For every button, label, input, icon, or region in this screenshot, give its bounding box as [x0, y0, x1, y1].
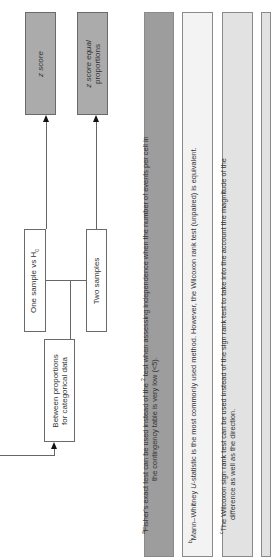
footnote-mann-whitney-text: bMann–Whitney U-statistic is the most co… — [190, 148, 199, 544]
connector-to-z-score-equal — [96, 121, 97, 229]
node-z-score: z score — [25, 12, 56, 115]
connector-from-parent-vertical — [54, 448, 55, 456]
footnote-fisher-text: aFisher's exact test can be used instead… — [142, 137, 160, 535]
connector-branch-horizontal — [46, 280, 86, 281]
node-z-score-equal-proportions-label: z score equal proportions — [83, 40, 101, 88]
connector-to-z-score — [46, 121, 47, 229]
footnote-fisher: aFisher's exact test can be used instead… — [144, 12, 174, 557]
node-between-proportions-label: Between proportions for categorical data — [50, 354, 68, 427]
node-two-samples-label: Two samples — [92, 257, 101, 304]
node-between-proportions: Between proportions for categorical data — [44, 339, 75, 442]
footnote-wilcoxon-text: cThe Wilcoxon sign rank test can be used… — [220, 158, 238, 534]
arrowhead-icon — [43, 115, 49, 122]
footnote-mann-whitney: bMann–Whitney U-statistic is the most co… — [182, 12, 213, 557]
footnote-wilcoxon: cThe Wilcoxon sign rank test can be used… — [222, 12, 253, 557]
node-two-samples: Two samples — [86, 229, 107, 332]
connector-branch-vertical — [70, 280, 71, 339]
arrowhead-icon — [93, 115, 99, 122]
node-one-sample: One sample vs H0 — [24, 229, 46, 332]
connector-from-parent-horizontal — [0, 455, 54, 456]
node-one-sample-label: One sample vs H0 — [29, 248, 40, 312]
arrowhead-icon — [51, 442, 57, 449]
footnote-strip-partial — [261, 12, 271, 557]
node-z-score-equal-proportions: z score equal proportions — [77, 12, 108, 115]
node-z-score-label: z score — [36, 51, 45, 77]
